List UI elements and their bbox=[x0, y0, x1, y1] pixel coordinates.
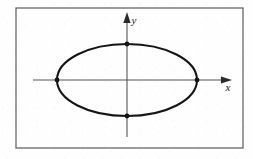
top-vertex-marker bbox=[125, 42, 130, 47]
x-axis-label: x bbox=[225, 81, 231, 93]
ellipse-diagram: x y bbox=[0, 0, 253, 159]
right-vertex-marker bbox=[195, 78, 200, 83]
y-axis-label: y bbox=[131, 14, 137, 26]
figure-frame bbox=[16, 8, 243, 148]
bottom-vertex-marker bbox=[125, 114, 130, 119]
left-vertex-marker bbox=[55, 78, 60, 83]
figure-container: x y bbox=[0, 0, 253, 159]
y-axis-arrowhead bbox=[123, 12, 130, 23]
